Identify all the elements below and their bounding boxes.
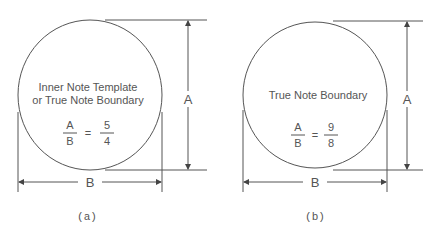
ratio-den-left-b: B — [294, 137, 301, 149]
ratio-num-left-b: A — [294, 121, 302, 133]
ratio-num-left: A — [66, 119, 74, 131]
label-line-1-b: True Note Boundary — [269, 89, 368, 101]
label-line-1: Inner Note Template — [39, 81, 138, 93]
dim-b-label-b: B — [311, 175, 320, 190]
dim-b-label: B — [86, 175, 95, 190]
ratio-eq: = — [85, 127, 91, 139]
label-line-2: or True Note Boundary — [32, 94, 144, 106]
ratio-eq-b: = — [312, 129, 318, 141]
ratio-num-right: 5 — [104, 119, 110, 131]
caption-a: (a) — [77, 211, 97, 223]
dim-a-label: A — [184, 92, 193, 107]
note-boundary-diagram: A B Inner Note Template or True Note Bou… — [0, 0, 439, 238]
caption-b: (b) — [305, 211, 325, 223]
dim-a-label-b: A — [403, 92, 412, 107]
ratio-den-left: B — [66, 135, 73, 147]
figure-b: A B True Note Boundary A B = 9 8 (b) — [243, 21, 423, 223]
ratio-num-right-b: 9 — [328, 121, 334, 133]
figure-a: A B Inner Note Template or True Note Bou… — [18, 20, 207, 223]
ratio-den-right: 4 — [104, 135, 110, 147]
ratio-den-right-b: 8 — [328, 137, 334, 149]
